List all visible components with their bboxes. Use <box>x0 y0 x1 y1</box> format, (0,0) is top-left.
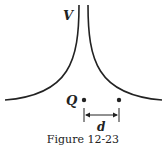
charge-point <box>82 98 86 102</box>
potential-label: V <box>63 8 75 23</box>
distance-label: d <box>97 120 106 134</box>
charge-label: Q <box>66 93 78 108</box>
test-point <box>117 98 121 102</box>
potential-diagram: V Q d Figure 12-23 <box>0 0 167 145</box>
arrowhead-left-icon <box>85 113 90 118</box>
potential-curve-right <box>88 5 162 100</box>
arrowhead-right-icon <box>113 113 118 118</box>
figure-caption: Figure 12-23 <box>47 133 119 145</box>
